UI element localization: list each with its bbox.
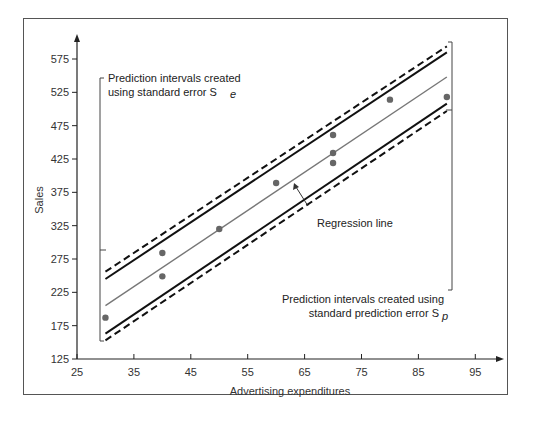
regression-line — [105, 77, 446, 306]
y-tick-label: 575 — [51, 53, 69, 65]
y-tick-label: 125 — [51, 353, 69, 365]
data-point — [444, 94, 450, 100]
y-tick-label: 425 — [51, 153, 69, 165]
data-point — [216, 226, 222, 232]
y-axis-arrow-icon — [74, 34, 80, 42]
annotation-regression-line: Regression line — [317, 217, 393, 229]
x-axis-arrow-icon — [496, 356, 504, 362]
y-tick-label: 475 — [51, 120, 69, 132]
data-point — [102, 314, 108, 320]
x-tick-label: 45 — [185, 366, 197, 378]
x-axis-label: Advertising expenditures — [230, 385, 351, 397]
x-tick-label: 85 — [412, 366, 424, 378]
prediction-interval-sp-line — [105, 111, 446, 340]
x-tick-label: 35 — [128, 366, 140, 378]
bracket-se — [100, 78, 104, 341]
data-point — [330, 132, 336, 138]
annotation-sp-line1: Prediction intervals created using — [282, 293, 444, 305]
data-point — [330, 160, 336, 166]
y-tick-label: 325 — [51, 220, 69, 232]
y-tick-label: 225 — [51, 286, 69, 298]
x-tick-label: 95 — [469, 366, 481, 378]
annotation-se-line1: Prediction intervals created — [108, 72, 241, 84]
data-point — [159, 273, 165, 279]
scatter-chart: 2535455565758595125175225275325375425475… — [0, 0, 537, 428]
x-tick-label: 75 — [355, 366, 367, 378]
data-point — [387, 96, 393, 102]
regression-arrow-head-icon — [293, 183, 299, 190]
data-point — [273, 180, 279, 186]
y-tick-label: 275 — [51, 253, 69, 265]
annotation-se-subscript: e — [230, 88, 236, 100]
annotation-se-line2: using standard error S — [108, 86, 217, 98]
x-tick-label: 25 — [71, 366, 83, 378]
data-point — [330, 150, 336, 156]
x-tick-label: 55 — [242, 366, 254, 378]
y-tick-label: 525 — [51, 86, 69, 98]
x-tick-label: 65 — [298, 366, 310, 378]
annotation-sp-line2: standard prediction error S — [309, 307, 439, 319]
y-axis-label: Sales — [33, 186, 45, 214]
y-tick-label: 175 — [51, 320, 69, 332]
data-point — [159, 250, 165, 256]
annotation-sp-subscript: p — [441, 310, 448, 322]
y-tick-label: 375 — [51, 186, 69, 198]
bracket-sp — [448, 42, 452, 290]
